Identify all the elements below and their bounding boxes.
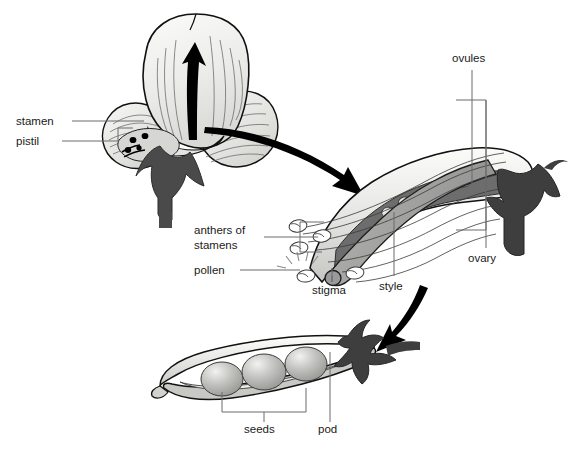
pistil-calyx [486,164,560,256]
flower-calyx [136,146,204,221]
anther [296,269,315,283]
pod-calyx [334,320,396,384]
seed [285,347,327,381]
label-seeds: seeds [244,423,275,435]
label-pod: pod [318,423,337,435]
label-anthers-line2: stamens [194,239,238,251]
seed [242,354,286,390]
diagram-canvas: stamen pistil [0,0,576,449]
label-pollen: pollen [194,264,225,276]
anther [289,241,308,255]
label-pistil: pistil [16,135,39,147]
label-stigma: stigma [312,284,346,296]
flower-pedicel [159,212,172,228]
label-ovules: ovules [452,52,485,64]
label-style: style [379,280,403,292]
pea-pod-illustration [151,320,420,400]
label-anthers-line1: anthers of [194,224,246,236]
label-stamen: stamen [16,115,54,127]
anther [288,219,308,234]
pistil-calyx-hook [544,160,568,170]
botanical-diagram: stamen pistil [0,0,576,449]
label-ovary: ovary [468,252,496,264]
pistil-detail-illustration [277,148,568,286]
seed [201,362,243,396]
